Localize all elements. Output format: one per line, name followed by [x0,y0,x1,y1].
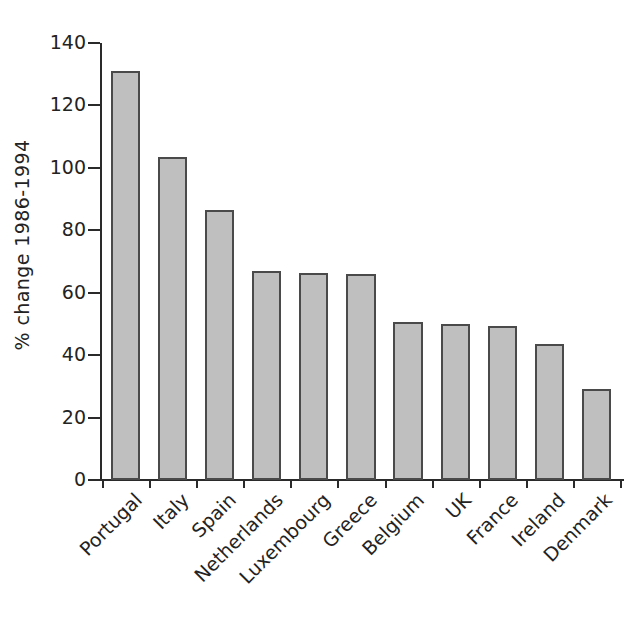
bar [488,326,517,480]
y-axis-tick [88,229,100,231]
bar [299,273,328,480]
x-axis-tick [479,481,481,488]
x-axis-tick [573,481,575,488]
x-axis-tick [432,481,434,488]
x-axis-tick [526,481,528,488]
bar [252,271,281,480]
bar [535,344,564,480]
y-axis-tick-label: 140 [30,33,86,52]
y-axis-tick-label: 20 [30,408,86,427]
bar [205,210,234,480]
x-axis-tick [620,481,622,488]
y-axis-tick [88,42,100,44]
bar [111,71,140,480]
bar [158,157,187,480]
x-axis-tick [149,481,151,488]
y-axis-tick [88,104,100,106]
x-axis-tick [102,481,104,488]
bar [582,389,611,480]
x-axis-tick [290,481,292,488]
x-axis-tick-label-text: Portugal [76,490,145,559]
bar [441,324,470,480]
y-axis-tick [88,417,100,419]
bar [393,322,422,480]
y-axis-tick [88,292,100,294]
y-axis-tick-label: 40 [30,345,86,364]
y-axis-tick-label: 0 [30,470,86,489]
y-axis-tick-label: 60 [30,283,86,302]
y-axis-tick-labels: 020406080100120140 [22,0,86,490]
x-axis-tick [196,481,198,488]
bar-chart: % change 1986-1994 020406080100120140 Po… [0,0,642,623]
y-axis-tick-label: 100 [30,158,86,177]
y-axis-tick [88,479,100,481]
bar [346,274,375,480]
y-axis-tick [88,354,100,356]
y-axis-tick-label: 80 [30,220,86,239]
x-axis-tick-label-text: Italy [149,490,192,533]
x-axis-tick [337,481,339,488]
x-axis-tick [243,481,245,488]
x-axis-tick-label-text: UK [443,490,475,522]
y-axis-tick-label: 120 [30,95,86,114]
y-axis-tick [88,167,100,169]
x-axis-tick [385,481,387,488]
